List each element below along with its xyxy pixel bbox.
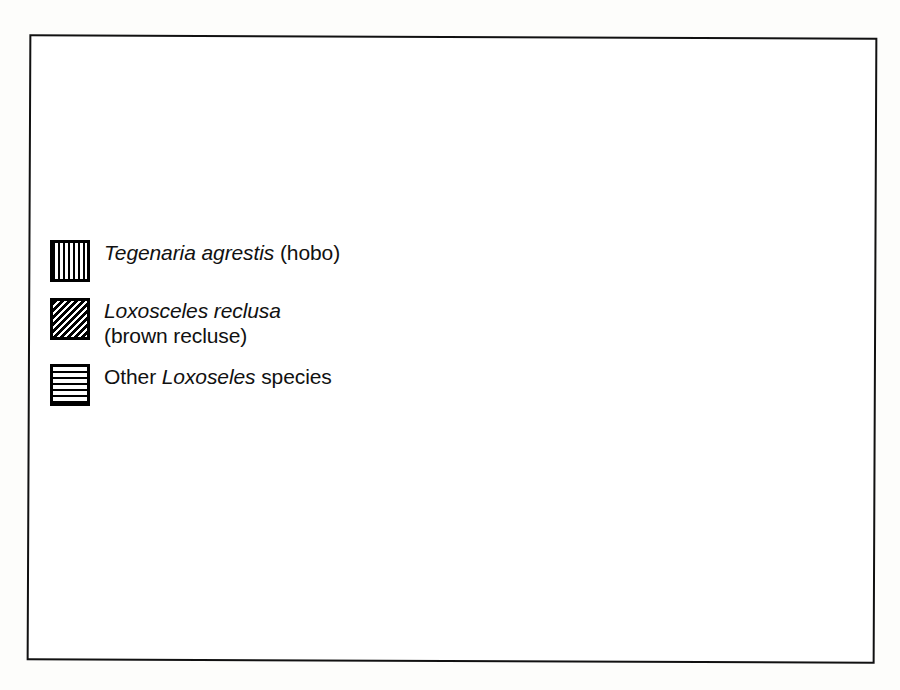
legend-scientific-name: Loxosceles reclusa	[104, 299, 281, 322]
figure-container: Tegenaria agrestis (hobo) Loxosceles rec…	[0, 0, 900, 690]
legend-scientific-name: Tegenaria agrestis	[104, 241, 274, 264]
legend-item-tegenaria: Tegenaria agrestis (hobo)	[50, 238, 350, 282]
legend-scientific-name: Loxoseles	[162, 365, 256, 388]
legend-prefix: Other	[104, 365, 162, 388]
legend-item-other-loxoseles: Other Loxoseles species	[50, 362, 350, 406]
legend-label-loxosceles-reclusa: Loxosceles reclusa (brown recluse)	[104, 296, 281, 348]
legend-label-other-loxoseles: Other Loxoseles species	[104, 362, 332, 389]
legend-common-name: (brown recluse)	[104, 323, 281, 348]
legend-suffix: species	[255, 365, 331, 388]
legend-swatch-vertical-lines	[50, 240, 90, 282]
legend: Tegenaria agrestis (hobo) Loxosceles rec…	[50, 238, 350, 420]
legend-swatch-horizontal-lines	[50, 364, 90, 406]
legend-swatch-diagonal-lines	[50, 298, 90, 340]
legend-common-name: (hobo)	[280, 241, 340, 264]
legend-label-tegenaria: Tegenaria agrestis (hobo)	[104, 238, 340, 265]
legend-item-loxosceles-reclusa: Loxosceles reclusa (brown recluse)	[50, 296, 350, 348]
